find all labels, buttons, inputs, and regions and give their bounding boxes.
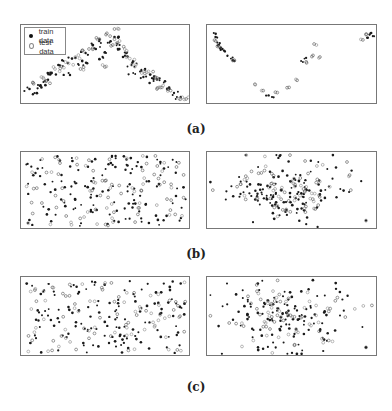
- scatter-a-right: [207, 25, 377, 104]
- scatter-c-right: [207, 277, 377, 356]
- plot-a-right: [206, 24, 377, 104]
- plot-c-right: [206, 276, 377, 356]
- caption-b: (b): [166, 247, 226, 261]
- legend-test-label: test data: [39, 38, 65, 56]
- scatter-c-left: [21, 277, 190, 356]
- caption-c: (c): [166, 380, 226, 394]
- legend: train data test data: [24, 27, 66, 55]
- open-circle-icon: [29, 43, 34, 49]
- plot-b-right: [206, 151, 377, 229]
- plot-c-left: [20, 276, 190, 356]
- scatter-b-right: [207, 152, 377, 229]
- scatter-b-left: [21, 152, 190, 229]
- legend-test: test data: [28, 41, 65, 52]
- plot-b-left: [20, 151, 190, 229]
- filled-dot-icon: [29, 34, 33, 38]
- caption-a: (a): [166, 122, 226, 136]
- plot-a-left: train data test data: [20, 24, 190, 104]
